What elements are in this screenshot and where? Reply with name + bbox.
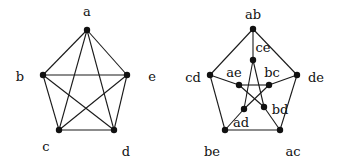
node-b — [40, 72, 46, 78]
node-bc — [266, 82, 272, 88]
node-label-bd: bd — [272, 102, 289, 117]
edge-b-c — [43, 75, 59, 130]
node-cd — [207, 72, 213, 78]
node-label-be: be — [204, 144, 220, 159]
node-be — [222, 127, 228, 133]
edge-be-cd — [210, 75, 225, 130]
k5-graph: abecd — [16, 4, 156, 159]
node-label-b: b — [16, 69, 24, 84]
node-label-cd: cd — [185, 70, 201, 85]
node-ce — [250, 57, 256, 63]
k5-edges — [43, 30, 127, 130]
node-d — [111, 127, 117, 133]
node-label-ce: ce — [256, 40, 271, 55]
graph-diagram-canvas: abecd abcecddeaebcadbdbeac — [0, 0, 340, 165]
node-ac — [277, 127, 283, 133]
node-e — [124, 72, 130, 78]
node-label-d: d — [122, 144, 130, 159]
node-ab — [250, 26, 256, 32]
node-a — [84, 27, 90, 33]
petersen-graph: abcecddeaebcadbdbeac — [185, 7, 324, 159]
node-label-c: c — [42, 139, 49, 154]
node-label-ab: ab — [245, 7, 261, 22]
node-label-e: e — [148, 69, 156, 84]
node-ae — [236, 82, 242, 88]
node-bd — [261, 104, 267, 110]
node-label-a: a — [83, 4, 91, 19]
node-de — [294, 72, 300, 78]
node-label-ae: ae — [226, 65, 242, 80]
node-label-de: de — [308, 70, 324, 85]
node-label-ad: ad — [233, 115, 249, 130]
node-label-ac: ac — [285, 144, 300, 159]
edge-b-d — [43, 75, 114, 130]
edge-c-e — [59, 75, 127, 130]
node-c — [56, 127, 62, 133]
edge-ae-bd — [239, 85, 264, 107]
node-ad — [241, 106, 247, 112]
edge-ce-bd — [253, 60, 264, 107]
node-label-bc: bc — [264, 65, 280, 80]
